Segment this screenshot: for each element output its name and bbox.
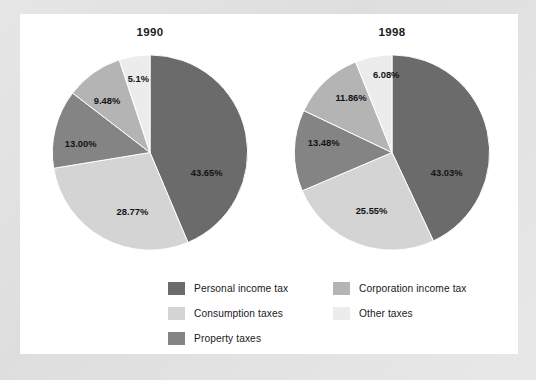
pie-chart-1990: 1990 43.65%28.77%13.00%9.48%5.1% <box>30 14 270 264</box>
legend-column-left: Personal income taxConsumption taxesProp… <box>168 276 288 351</box>
pie-canvas-1990: 43.65%28.77%13.00%9.48%5.1% <box>48 50 253 255</box>
pie-slice-label: 13.48% <box>308 138 340 148</box>
legend-swatch-icon <box>168 332 185 345</box>
pie-slice-label: 5.1% <box>128 74 150 84</box>
legend-swatch-icon <box>333 282 350 295</box>
pie-slice-label: 11.86% <box>335 93 367 103</box>
legend-swatch-icon <box>333 307 350 320</box>
page-root: 1990 43.65%28.77%13.00%9.48%5.1% 1998 43… <box>0 0 536 380</box>
pie-svg-1998: 43.03%25.55%13.48%11.86%6.08% <box>290 50 495 255</box>
legend-item-label: Consumption taxes <box>194 308 283 319</box>
chart-legend: Personal income taxConsumption taxesProp… <box>20 276 518 354</box>
pie-chart-1998: 1998 43.03%25.55%13.48%11.86%6.08% <box>272 14 512 264</box>
legend-item-label: Other taxes <box>359 308 413 319</box>
pie-slice-label: 13.00% <box>65 139 97 149</box>
legend-swatch-icon <box>168 282 185 295</box>
chart-title-1998: 1998 <box>272 26 512 38</box>
legend-swatch-icon <box>168 307 185 320</box>
legend-column-right: Corporation income taxOther taxes <box>333 276 467 326</box>
chart-title-1990: 1990 <box>30 26 270 38</box>
legend-item[interactable]: Other taxes <box>333 301 467 326</box>
pie-slices-1990 <box>52 55 247 250</box>
pie-slice-label: 28.77% <box>117 207 149 217</box>
figure-panel: 1990 43.65%28.77%13.00%9.48%5.1% 1998 43… <box>20 14 518 354</box>
legend-item[interactable]: Corporation income tax <box>333 276 467 301</box>
pie-svg-1990: 43.65%28.77%13.00%9.48%5.1% <box>48 50 253 255</box>
legend-item-label: Corporation income tax <box>359 283 467 294</box>
pie-slices-1998 <box>294 55 489 250</box>
pie-slice-label: 43.03% <box>431 168 463 178</box>
pie-canvas-1998: 43.03%25.55%13.48%11.86%6.08% <box>290 50 495 255</box>
pie-slice-label: 9.48% <box>94 96 121 106</box>
legend-item[interactable]: Property taxes <box>168 326 288 351</box>
pie-slice-label: 43.65% <box>191 168 223 178</box>
legend-item[interactable]: Personal income tax <box>168 276 288 301</box>
legend-item-label: Personal income tax <box>194 283 288 294</box>
pie-slice-label: 25.55% <box>356 206 388 216</box>
legend-item-label: Property taxes <box>194 333 261 344</box>
legend-item[interactable]: Consumption taxes <box>168 301 288 326</box>
pie-slice-label: 6.08% <box>373 70 400 80</box>
